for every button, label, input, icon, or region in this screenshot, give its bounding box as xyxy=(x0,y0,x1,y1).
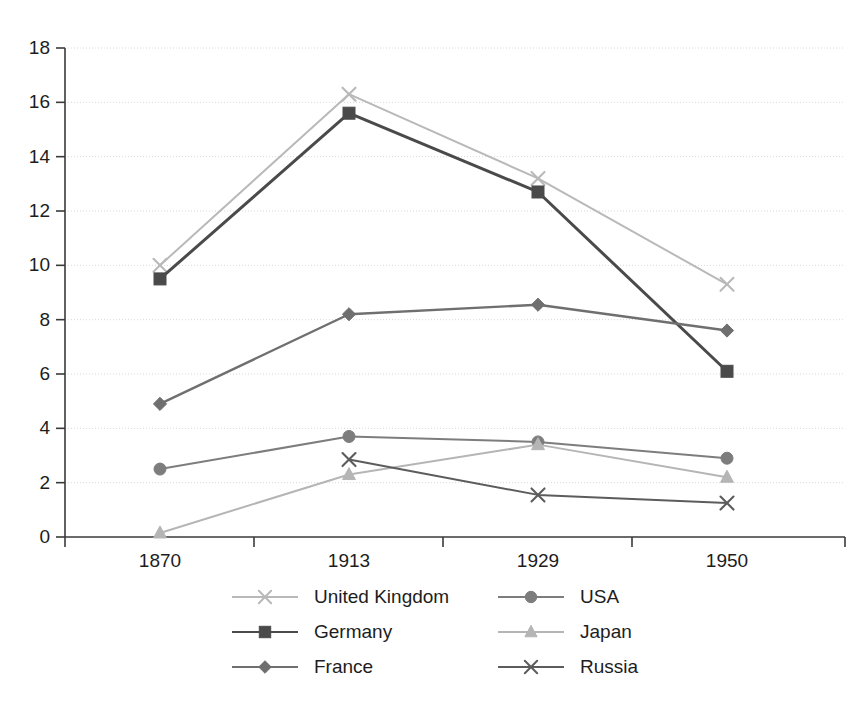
series-france xyxy=(153,298,733,410)
series-line-united-kingdom xyxy=(160,94,727,284)
gridlines xyxy=(65,48,845,483)
series-line-japan xyxy=(160,445,727,533)
marker-circle xyxy=(343,430,355,442)
marker-square xyxy=(259,626,270,637)
marker-square xyxy=(154,273,166,285)
x-tick-label-1929: 1929 xyxy=(517,550,559,571)
y-axis xyxy=(56,48,65,537)
marker-diamond xyxy=(153,397,166,410)
y-tick-labels: 024681012141618 xyxy=(29,37,51,547)
marker-diamond xyxy=(342,308,355,321)
data-point-square xyxy=(532,186,544,198)
chart-legend: United KingdomUSAGermanyJapanFranceRussi… xyxy=(232,586,639,677)
legend-item-usa[interactable]: USA xyxy=(498,586,619,607)
series-usa xyxy=(154,430,733,475)
legend-label-japan: Japan xyxy=(580,621,632,642)
data-point-square xyxy=(721,365,733,377)
legend-label-usa: USA xyxy=(580,586,619,607)
series-line-usa xyxy=(160,436,727,469)
y-tick-label-6: 6 xyxy=(39,363,50,384)
marker-diamond xyxy=(531,298,544,311)
series-russia xyxy=(343,453,734,509)
data-point-circle xyxy=(343,430,355,442)
data-point-circle xyxy=(721,452,733,464)
series-japan xyxy=(154,438,734,538)
data-point-diamond xyxy=(720,324,733,337)
y-tick-label-12: 12 xyxy=(29,200,50,221)
y-tick-label-18: 18 xyxy=(29,37,50,58)
marker-circle xyxy=(525,591,536,602)
legend-item-united-kingdom[interactable]: United Kingdom xyxy=(232,586,449,607)
data-point-square xyxy=(154,273,166,285)
y-tick-label-2: 2 xyxy=(39,472,50,493)
y-tick-label-14: 14 xyxy=(29,146,51,167)
legend-item-japan[interactable]: Japan xyxy=(498,621,632,642)
series-united-kingdom xyxy=(154,88,734,291)
marker-square xyxy=(721,365,733,377)
y-tick-label-4: 4 xyxy=(39,417,50,438)
series-line-germany xyxy=(160,113,727,371)
marker-square xyxy=(532,186,544,198)
y-tick-label-10: 10 xyxy=(29,254,50,275)
y-tick-label-0: 0 xyxy=(39,526,50,547)
x-tick-label-1913: 1913 xyxy=(328,550,370,571)
x-axis xyxy=(65,537,845,547)
y-tick-label-16: 16 xyxy=(29,91,50,112)
series-germany xyxy=(154,107,733,377)
x-tick-label-1950: 1950 xyxy=(706,550,748,571)
marker-circle xyxy=(721,452,733,464)
marker-diamond xyxy=(720,324,733,337)
data-series-group xyxy=(153,88,733,538)
line-chart: 024681012141618 1870191319291950 United … xyxy=(0,0,852,714)
data-point-square xyxy=(343,107,355,119)
data-point-diamond xyxy=(259,661,272,674)
data-point-diamond xyxy=(531,298,544,311)
legend-item-germany[interactable]: Germany xyxy=(232,621,393,642)
x-tick-labels: 1870191319291950 xyxy=(139,550,748,571)
data-point-x xyxy=(721,278,734,291)
data-point-circle xyxy=(154,463,166,475)
legend-label-germany: Germany xyxy=(314,621,393,642)
data-point-diamond xyxy=(153,397,166,410)
data-point-circle xyxy=(525,591,536,602)
x-tick-label-1870: 1870 xyxy=(139,550,181,571)
marker-diamond xyxy=(259,661,272,674)
legend-label-united-kingdom: United Kingdom xyxy=(314,586,449,607)
marker-square xyxy=(343,107,355,119)
data-point-x xyxy=(532,172,545,185)
chart-canvas: 024681012141618 1870191319291950 United … xyxy=(0,0,852,714)
data-point-x xyxy=(343,88,356,101)
legend-label-russia: Russia xyxy=(580,656,639,677)
legend-item-france[interactable]: France xyxy=(232,656,373,677)
y-tick-label-8: 8 xyxy=(39,309,50,330)
data-point-diamond xyxy=(342,308,355,321)
legend-label-france: France xyxy=(314,656,373,677)
data-point-square xyxy=(259,626,270,637)
legend-item-russia[interactable]: Russia xyxy=(498,656,639,677)
marker-circle xyxy=(154,463,166,475)
